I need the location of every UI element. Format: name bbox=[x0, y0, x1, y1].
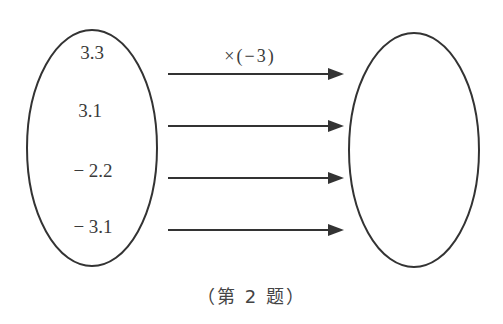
figure-caption: （第 2 题） bbox=[0, 282, 503, 308]
arrow-4 bbox=[168, 224, 344, 236]
input-value: 3.1 bbox=[50, 100, 130, 122]
input-value: 3.3 bbox=[52, 42, 132, 64]
input-value: − 2.2 bbox=[48, 160, 138, 182]
operation-label: ×(−3) bbox=[205, 46, 295, 67]
input-value: − 3.1 bbox=[48, 216, 138, 238]
arrow-3 bbox=[168, 172, 344, 184]
arrow-1 bbox=[168, 68, 344, 80]
arrow-2 bbox=[168, 120, 344, 132]
output-set-ellipse bbox=[349, 33, 479, 267]
